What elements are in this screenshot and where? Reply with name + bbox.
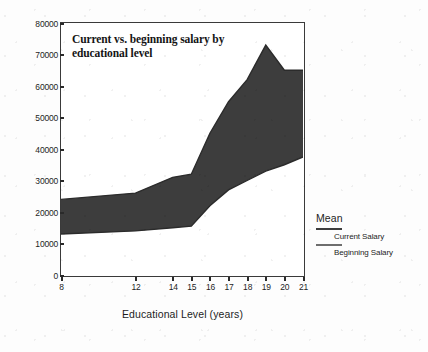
- x-tick-mark: [247, 277, 249, 281]
- legend-label-beginning-salary: Beginning Salary: [334, 248, 426, 257]
- x-tick-mark: [135, 277, 137, 281]
- x-tick-mark: [172, 277, 174, 281]
- x-tick-label: 8: [59, 282, 64, 292]
- x-tick-mark: [303, 277, 305, 281]
- x-tick-label: 18: [243, 282, 252, 292]
- x-tick-mark: [61, 277, 63, 281]
- x-tick-label: 20: [280, 282, 289, 292]
- y-tick-label: 40000: [12, 145, 58, 155]
- x-axis: 8121415161718192021: [60, 277, 305, 299]
- x-tick-label: 17: [225, 282, 234, 292]
- x-tick-mark: [209, 277, 211, 281]
- y-tick-label: 70000: [12, 50, 58, 60]
- x-tick-label: 19: [262, 282, 271, 292]
- y-tick-mark: [60, 86, 64, 88]
- y-tick-mark: [60, 149, 64, 151]
- x-tick-label: 14: [169, 282, 178, 292]
- y-tick-mark: [60, 23, 64, 25]
- x-tick-label: 21: [299, 282, 308, 292]
- y-tick-mark: [60, 54, 64, 56]
- y-tick-label: 30000: [12, 176, 58, 186]
- legend-entry-beginning-salary: Beginning Salary: [316, 244, 426, 257]
- y-axis: 0100002000030000400005000060000700008000…: [8, 22, 58, 277]
- y-tick-mark: [60, 212, 64, 214]
- legend-entry-current-salary: Current Salary: [316, 228, 426, 241]
- x-tick-mark: [228, 277, 230, 281]
- y-tick-label: 0: [12, 271, 58, 281]
- y-tick-label: 50000: [12, 113, 58, 123]
- y-tick-mark: [60, 243, 64, 245]
- x-tick-label: 15: [187, 282, 196, 292]
- plot-area: [60, 22, 305, 277]
- chart-page: Current vs. beginning salary by educatio…: [0, 0, 428, 352]
- legend-swatch-current-salary: [316, 228, 342, 230]
- area-band-svg: [61, 23, 303, 275]
- y-tick-label: 60000: [12, 82, 58, 92]
- y-tick-label: 10000: [12, 239, 58, 249]
- x-tick-label: 16: [206, 282, 215, 292]
- y-tick-mark: [60, 117, 64, 119]
- x-tick-label: 12: [131, 282, 140, 292]
- legend-title: Mean: [316, 212, 426, 224]
- y-tick-mark: [60, 180, 64, 182]
- salary-range-band: [61, 45, 303, 234]
- x-tick-mark: [265, 277, 267, 281]
- x-tick-mark: [191, 277, 193, 281]
- y-tick-label: 80000: [12, 19, 58, 29]
- legend: Mean Current Salary Beginning Salary: [316, 212, 426, 259]
- x-tick-mark: [284, 277, 286, 281]
- legend-swatch-beginning-salary: [316, 244, 342, 246]
- x-axis-label: Educational Level (years): [60, 308, 305, 320]
- chart-title: Current vs. beginning salary by educatio…: [72, 32, 232, 60]
- y-tick-label: 20000: [12, 208, 58, 218]
- legend-label-current-salary: Current Salary: [334, 232, 426, 241]
